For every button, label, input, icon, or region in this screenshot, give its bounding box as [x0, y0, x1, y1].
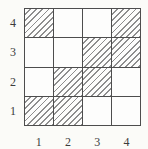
y-tick-label-1: 1 — [10, 97, 16, 127]
x-tick-label-1: 1 — [24, 136, 53, 148]
grid-cell-row4-col2-empty — [54, 9, 82, 37]
x-tick-label-4: 4 — [112, 136, 141, 148]
grid-cell-row1-col2-hatched — [54, 97, 82, 125]
axis-corner — [0, 126, 24, 149]
hatched-grid-figure: 4321 1234 — [0, 8, 141, 149]
x-tick-label-3: 3 — [83, 136, 112, 148]
grid-cell-row3-col2-empty — [54, 38, 82, 66]
grid — [24, 8, 141, 126]
grid-cell-row2-col2-hatched — [54, 68, 82, 96]
grid-cell-row4-col3-empty — [83, 9, 111, 37]
grid-cell-row1-col1-hatched — [25, 97, 53, 125]
grid-cell-row3-col4-hatched — [112, 38, 140, 66]
grid-cell-row2-col4-empty — [112, 68, 140, 96]
grid-cell-row4-col1-hatched — [25, 9, 53, 37]
y-tick-label-2: 2 — [10, 67, 16, 97]
grid-cell-row1-col3-empty — [83, 97, 111, 125]
y-tick-label-4: 4 — [10, 8, 16, 38]
grid-cell-row4-col4-hatched — [112, 9, 140, 37]
grid-cell-row3-col3-hatched — [83, 38, 111, 66]
grid-cell-row1-col4-empty — [112, 97, 140, 125]
grid-cell-row2-col1-empty — [25, 68, 53, 96]
grid-cell-row3-col1-empty — [25, 38, 53, 66]
y-tick-label-3: 3 — [10, 38, 16, 68]
x-tick-label-2: 2 — [53, 136, 82, 148]
y-axis-labels: 4321 — [0, 8, 24, 126]
x-axis-labels: 1234 — [24, 126, 141, 149]
grid-cell-row2-col3-hatched — [83, 68, 111, 96]
